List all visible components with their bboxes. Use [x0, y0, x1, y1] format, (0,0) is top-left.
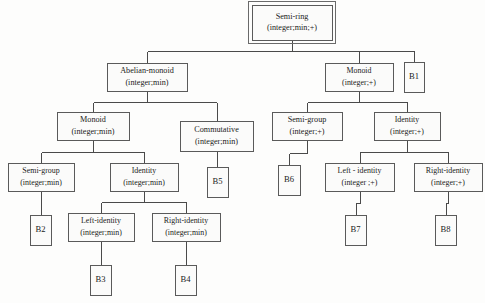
- edge-group-monoid-min: [42, 140, 145, 163]
- node-layer: Semi-ring(integer;min;+)Abelian-monoid(i…: [9, 2, 483, 296]
- node-label-left-identity-min: Left-identity: [81, 216, 121, 225]
- node-label-b1: B1: [409, 71, 419, 81]
- node-b4[interactable]: B4: [176, 266, 197, 296]
- node-left-identity-min[interactable]: Left-identity(integer;min): [69, 214, 135, 242]
- node-b6[interactable]: B6: [279, 166, 301, 196]
- edge-group-monoid-plus: [308, 91, 408, 112]
- node-label-right-identity-min: Right-identity: [164, 216, 208, 225]
- node-semi-group-min[interactable]: Semi-group(integer;min): [9, 164, 75, 192]
- edge-group-identity-min: [102, 191, 187, 213]
- node-label-b4: B4: [180, 274, 191, 284]
- node-sublabel-semi-group-min: (integer;min): [20, 178, 62, 187]
- node-sublabel-identity-min: (integer;min): [123, 178, 165, 187]
- node-sublabel-right-identity-plus: (integer;+): [431, 178, 465, 187]
- node-label-semi-group-plus: Semi-group: [288, 115, 327, 124]
- node-label-semi-ring: Semi-ring: [276, 12, 309, 21]
- node-label-b8: B8: [440, 224, 450, 234]
- node-label-identity-plus: Identity: [395, 115, 420, 124]
- node-sublabel-semi-group-plus: (integer;+): [289, 127, 324, 136]
- node-label-b2: B2: [35, 224, 45, 234]
- node-monoid-min[interactable]: Monoid(integer;min): [58, 113, 130, 141]
- node-monoid-plus[interactable]: Monoid(integer;+): [326, 64, 394, 92]
- node-label-identity-min: Identity: [132, 166, 157, 175]
- node-b7[interactable]: B7: [346, 216, 367, 246]
- edge-group-left-identity-plus: [356, 191, 360, 215]
- node-label-b5: B5: [212, 176, 222, 186]
- node-sublabel-commutative: (integer;min): [195, 137, 238, 146]
- node-right-identity-min[interactable]: Right-identity(integer;min): [153, 214, 221, 242]
- node-sublabel-semi-ring: (integer;min;+): [267, 23, 317, 32]
- node-label-commutative: Commutative: [194, 125, 239, 134]
- node-b2[interactable]: B2: [31, 216, 52, 246]
- node-label-abelian-monoid: Abelian-monoid: [120, 66, 174, 75]
- node-label-right-identity-plus: Right-identity: [426, 166, 470, 175]
- node-b8[interactable]: B8: [436, 216, 457, 246]
- node-b5[interactable]: B5: [208, 168, 229, 198]
- node-commutative[interactable]: Commutative(integer;min): [181, 122, 254, 152]
- node-identity-min[interactable]: Identity(integer;min): [111, 164, 179, 192]
- edge-group-right-identity-plus: [446, 191, 449, 215]
- node-abelian-monoid[interactable]: Abelian-monoid(integer;min): [108, 64, 188, 92]
- node-sublabel-abelian-monoid: (integer;min): [125, 78, 168, 87]
- node-sublabel-identity-plus: (integer;+): [390, 127, 424, 136]
- node-sublabel-left-identity-plus: (integer ;+): [342, 178, 378, 187]
- node-right-identity-plus[interactable]: Right-identity(integer;+): [415, 164, 483, 192]
- node-label-left-identity-plus: Left - identity: [338, 166, 382, 175]
- node-identity-plus[interactable]: Identity(integer;+): [375, 113, 441, 141]
- node-sublabel-monoid-min: (integer;min): [71, 127, 114, 136]
- node-label-b3: B3: [95, 274, 105, 284]
- node-label-monoid-plus: Monoid: [347, 66, 372, 75]
- edge-group-identity-plus: [360, 140, 449, 163]
- diagram-canvas: Semi-ring(integer;min;+)Abelian-monoid(i…: [0, 0, 485, 303]
- node-sublabel-left-identity-min: (integer;min): [80, 228, 122, 237]
- edge-group-semi-group-plus: [290, 140, 308, 165]
- node-label-b7: B7: [350, 224, 361, 234]
- node-sublabel-monoid-plus: (integer;+): [342, 78, 376, 87]
- node-semi-group-plus[interactable]: Semi-group(integer;+): [273, 113, 343, 141]
- node-semi-ring[interactable]: Semi-ring(integer;min;+): [249, 2, 336, 44]
- node-label-monoid-min: Monoid: [80, 115, 106, 124]
- node-label-b6: B6: [284, 174, 295, 184]
- node-b1[interactable]: B1: [405, 63, 425, 93]
- node-label-semi-group-min: Semi-group: [22, 166, 59, 175]
- hierarchy-tree-diagram: Semi-ring(integer;min;+)Abelian-monoid(i…: [0, 0, 485, 303]
- node-sublabel-right-identity-min: (integer;min): [165, 228, 207, 237]
- node-b3[interactable]: B3: [91, 266, 112, 296]
- node-left-identity-plus[interactable]: Left - identity(integer ;+): [326, 164, 395, 192]
